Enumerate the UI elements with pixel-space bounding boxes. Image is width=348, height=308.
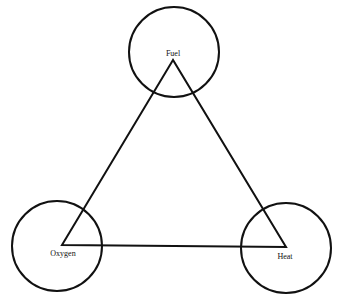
heat-label: Heat [277,252,293,261]
fuel-label: Fuel [166,49,181,58]
oxygen-label: Oxygen [50,249,75,258]
fire-triangle-diagram: Fuel Oxygen Heat [0,0,348,308]
